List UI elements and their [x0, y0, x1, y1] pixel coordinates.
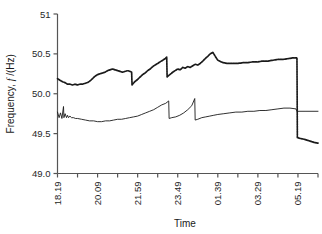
x-tick-label: 18.19 [52, 182, 63, 206]
y-axis-label: Frequency, f /(Hz) [5, 54, 16, 133]
chart-figure: 49.049.550.050.551 18.1920.0921.5923.490… [0, 0, 322, 234]
x-tick-label: 05.19 [292, 182, 303, 206]
y-tick-label: 50.0 [32, 88, 51, 99]
y-axis-label-text: Frequency, f /(Hz) [5, 54, 16, 133]
x-tick-label: 01.39 [212, 182, 223, 206]
x-tick-label: 21.59 [132, 182, 143, 206]
y-tick-label: 49.0 [32, 168, 51, 179]
x-axis-label: Time [174, 218, 196, 229]
plot-background [0, 0, 322, 234]
y-tick-label: 51 [40, 9, 51, 20]
y-tick-label: 50.5 [32, 48, 51, 59]
y-axis-label-name: Frequency, [5, 81, 16, 133]
x-tick-label: 20.09 [92, 182, 103, 206]
y-axis-label-unit: /(Hz) [5, 54, 16, 78]
frequency-vs-time-line-chart: 49.049.550.050.551 18.1920.0921.5923.490… [0, 0, 322, 234]
x-tick-label: 03.29 [252, 182, 263, 206]
y-tick-label: 49.5 [32, 128, 51, 139]
x-tick-label: 23.49 [172, 182, 183, 206]
